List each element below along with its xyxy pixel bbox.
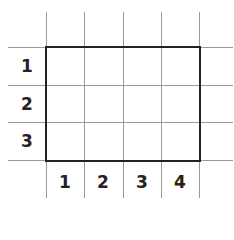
outlined-rectangle: [45, 46, 201, 162]
row-label-3: 3: [8, 131, 46, 151]
column-label-2: 2: [84, 172, 122, 192]
column-label-4: 4: [161, 172, 199, 192]
column-label-3: 3: [123, 172, 161, 192]
row-label-1: 1: [8, 56, 46, 76]
row-label-2: 2: [8, 94, 46, 114]
column-label-1: 1: [46, 172, 84, 192]
